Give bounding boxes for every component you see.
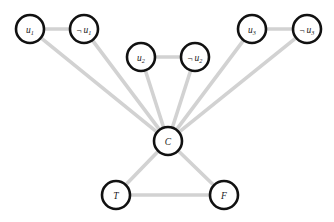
- graph-node-nu1[interactable]: ¬ u1: [70, 15, 98, 43]
- graph-edge-u2-C: [145, 71, 163, 127]
- graph-node-u3[interactable]: u3: [238, 15, 266, 43]
- graph-node-u1[interactable]: u1: [16, 15, 44, 43]
- node-label-F: F: [220, 191, 227, 201]
- graph-node-F[interactable]: F: [210, 181, 238, 209]
- node-label-T: T: [113, 191, 119, 201]
- graph-edge-C-F: [178, 151, 213, 185]
- graph-edge-C-T: [126, 151, 158, 184]
- edge-layer: [41, 29, 295, 195]
- graph-node-u2[interactable]: u2: [127, 43, 155, 71]
- graph-node-nu2[interactable]: ¬ u2: [181, 43, 209, 71]
- graph-canvas: u1¬ u1u2¬ u2u3¬ u3CTF: [0, 0, 334, 222]
- graph-node-C[interactable]: C: [154, 127, 182, 155]
- graph-node-nu3[interactable]: ¬ u3: [293, 15, 321, 43]
- graph-diagram: u1¬ u1u2¬ u2u3¬ u3CTF: [0, 0, 334, 222]
- node-label-C: C: [165, 137, 172, 147]
- node-layer: u1¬ u1u2¬ u2u3¬ u3CTF: [16, 15, 321, 209]
- graph-edge-nu2-C: [172, 71, 190, 127]
- graph-node-T[interactable]: T: [102, 181, 130, 209]
